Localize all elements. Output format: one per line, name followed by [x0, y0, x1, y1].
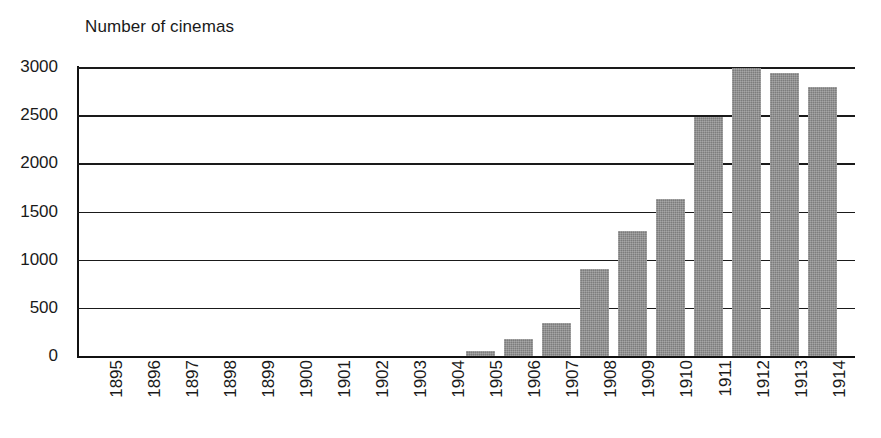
x-axis-tick-label: 1908 [601, 360, 621, 398]
bar [770, 73, 799, 356]
x-axis-tick-label: 1904 [449, 360, 469, 398]
x-axis-tick-label: 1899 [259, 360, 279, 398]
bar [656, 199, 685, 356]
x-axis-tick-label: 1910 [677, 360, 697, 398]
bar [808, 87, 837, 356]
x-axis-tick-label: 1911 [716, 360, 736, 397]
bar [732, 68, 761, 356]
x-axis-tick-label: 1906 [525, 360, 545, 398]
x-axis-tick-label: 1913 [792, 360, 812, 398]
chart-title: Number of cinemas [85, 17, 234, 37]
y-axis-tick-label: 2500 [20, 105, 58, 125]
x-axis-tick-label: 1901 [335, 360, 355, 398]
x-axis-tick-labels: 1895189618971898189919001901190219031904… [77, 358, 855, 438]
y-axis-tick-label: 1500 [20, 202, 58, 222]
x-axis-tick-label: 1902 [373, 360, 393, 398]
bar [580, 269, 609, 356]
x-axis-tick-label: 1914 [830, 360, 850, 398]
y-axis-tick-label: 500 [30, 298, 58, 318]
x-axis-tick-label: 1912 [754, 360, 774, 398]
plot-area [77, 67, 855, 356]
bar [694, 117, 723, 356]
x-axis-tick-label: 1907 [563, 360, 583, 398]
chart-figure: Number of cinemas 0500100015002000250030… [0, 0, 881, 438]
y-axis-tick-label: 2000 [20, 153, 58, 173]
bar [618, 231, 647, 356]
x-axis-tick-label: 1909 [639, 360, 659, 398]
x-axis-tick-label: 1896 [145, 360, 165, 398]
y-axis-tick-label: 1000 [20, 250, 58, 270]
x-axis-tick-label: 1897 [183, 360, 203, 398]
bar [542, 323, 571, 356]
x-axis-tick-label: 1898 [221, 360, 241, 398]
bar-series [77, 67, 855, 356]
bar [504, 339, 533, 356]
x-axis-tick-label: 1905 [487, 360, 507, 398]
x-axis-tick-label: 1903 [411, 360, 431, 398]
y-axis-tick-label: 0 [49, 346, 58, 366]
bar [466, 351, 495, 356]
x-axis-tick-label: 1900 [297, 360, 317, 398]
y-axis-tick-label: 3000 [20, 57, 58, 77]
x-axis-tick-label: 1895 [107, 360, 127, 398]
y-axis-tick-labels: 050010001500200025003000 [0, 67, 70, 356]
